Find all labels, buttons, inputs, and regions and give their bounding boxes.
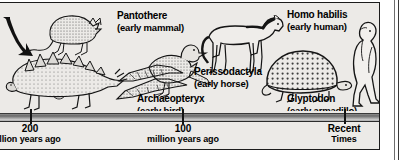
timeline-tick-100 — [182, 109, 184, 124]
caption-archaeopteryx: Archaeopteryx (early bird) — [137, 93, 204, 111]
timeline-label-200-unit: llion years ago — [0, 134, 101, 145]
prehistoric-timeline-figure: Pantothere (early mammal) Homo habilis (… — [0, 0, 401, 160]
figure-panel: Pantothere (early mammal) Homo habilis (… — [0, 2, 380, 150]
timeline-label-recent-unit: Times — [304, 134, 384, 145]
timeline-label-recent-value: Recent — [304, 123, 384, 134]
caption-perissodactyla-name: Perissodactyla — [194, 66, 262, 77]
caption-perissodactyla-subtitle: (early horse) — [194, 78, 262, 90]
caption-glyptodon-name: Glyptodon — [287, 93, 335, 104]
timeline-label-200: 200 llion years ago — [0, 123, 101, 145]
page-edge-rule — [398, 0, 399, 160]
timeline-axis-bar — [0, 113, 379, 122]
caption-pantothere: Pantothere (early mammal) — [117, 10, 184, 33]
timeline-label-100-unit: million years ago — [112, 134, 254, 145]
page-edge-rule-inner — [394, 0, 395, 160]
timeline-label-100: 100 million years ago — [112, 123, 254, 145]
illustration-stage: Pantothere (early mammal) Homo habilis (… — [0, 3, 379, 111]
caption-homo-habilis-subtitle: (early human) — [287, 21, 347, 33]
caption-homo-habilis-name: Homo habilis — [287, 9, 347, 20]
caption-archaeopteryx-name: Archaeopteryx — [137, 93, 204, 104]
caption-pantothere-subtitle: (early mammal) — [117, 22, 184, 34]
timeline-label-100-value: 100 — [112, 123, 254, 134]
caption-pantothere-name: Pantothere — [117, 10, 167, 21]
timeline-label-200-value: 200 — [0, 123, 101, 134]
timeline-tick-recent — [344, 109, 346, 124]
caption-glyptodon: Glyptodon (early armadillo) — [287, 93, 357, 111]
caption-glyptodon-subtitle: (early armadillo) — [287, 105, 357, 112]
timeline-tick-200 — [30, 109, 32, 124]
caption-homo-habilis: Homo habilis (early human) — [287, 9, 347, 32]
timeline-label-recent: Recent Times — [304, 123, 384, 145]
caption-archaeopteryx-subtitle: (early bird) — [137, 105, 204, 112]
caption-perissodactyla: Perissodactyla (early horse) — [194, 66, 262, 89]
